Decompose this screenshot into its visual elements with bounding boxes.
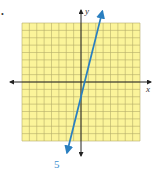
- problem-number: 5: [54, 158, 60, 170]
- coordinate-plane: x y: [0, 0, 154, 176]
- y-axis-label: y: [84, 6, 89, 16]
- x-axis-label: x: [145, 84, 150, 94]
